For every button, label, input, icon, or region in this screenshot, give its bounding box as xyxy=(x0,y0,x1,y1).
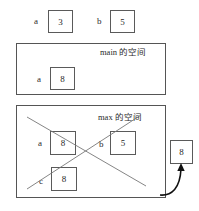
main-var-a-label: a xyxy=(37,75,41,84)
return-value-box: 8 xyxy=(170,140,193,164)
top-var-a-label: a xyxy=(34,17,38,26)
max-var-c-value-box: 8 xyxy=(51,167,77,191)
max-var-b-value: 5 xyxy=(121,138,126,148)
main-frame-title-name: main xyxy=(100,47,117,57)
top-var-a-value-box: 3 xyxy=(48,10,73,33)
max-var-b-label: b xyxy=(99,140,104,149)
main-frame-title-suffix: 的空间 xyxy=(119,47,146,57)
max-var-b-value-box: 5 xyxy=(110,131,136,155)
max-frame-title-name: max xyxy=(98,112,113,122)
max-var-c-value: 8 xyxy=(62,174,67,184)
main-var-a-value: 8 xyxy=(60,74,65,84)
max-var-a-value-box: 8 xyxy=(50,131,76,155)
main-var-a-value-box: 8 xyxy=(50,67,75,90)
max-var-a-label: a xyxy=(38,139,42,148)
main-frame-title: main 的空间 xyxy=(100,45,146,57)
max-var-a-value: 8 xyxy=(61,138,66,148)
top-var-b-value-box: 5 xyxy=(110,10,135,33)
top-var-b-label: b xyxy=(97,17,102,26)
diagram-canvas: a 3 b 5 main 的空间 a 8 max 的空间 a 8 b 5 c 8… xyxy=(0,0,199,211)
max-frame-title: max 的空间 xyxy=(98,110,142,122)
top-var-b-value: 5 xyxy=(120,17,125,27)
max-var-c-label: c xyxy=(39,177,43,186)
max-frame-title-suffix: 的空间 xyxy=(115,112,142,122)
top-var-a-value: 3 xyxy=(58,17,63,27)
return-value: 8 xyxy=(179,147,184,157)
